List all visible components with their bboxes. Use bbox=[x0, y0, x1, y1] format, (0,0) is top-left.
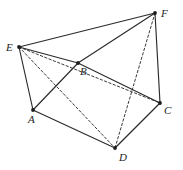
vertex-dot-e bbox=[17, 45, 21, 49]
edge-E-A bbox=[19, 47, 33, 110]
vertex-dot-d bbox=[113, 146, 117, 150]
edge-E-D bbox=[19, 47, 115, 148]
vertex-label-d: D bbox=[119, 152, 127, 163]
vertex-dot-c bbox=[158, 101, 162, 105]
vertex-label-f: F bbox=[161, 8, 168, 19]
vertex-label-b: B bbox=[80, 66, 87, 77]
figure-canvas bbox=[0, 0, 183, 170]
hidden-edges-group bbox=[19, 13, 160, 148]
geometry-figure: ABCDEF bbox=[0, 0, 183, 170]
vertex-dot-a bbox=[31, 108, 35, 112]
visible-edges-group bbox=[19, 13, 160, 148]
vertex-dots-group bbox=[17, 11, 162, 150]
edge-E-B bbox=[19, 47, 78, 63]
edge-B-C bbox=[78, 63, 160, 103]
vertex-label-e: E bbox=[6, 42, 13, 53]
edge-A-B bbox=[33, 63, 78, 110]
edge-B-F bbox=[78, 13, 155, 63]
vertex-dot-f bbox=[153, 11, 157, 15]
edge-F-C bbox=[155, 13, 160, 103]
vertex-label-c: C bbox=[164, 105, 171, 116]
edge-E-F bbox=[19, 13, 155, 47]
edge-A-D bbox=[33, 110, 115, 148]
vertex-label-a: A bbox=[28, 114, 35, 125]
